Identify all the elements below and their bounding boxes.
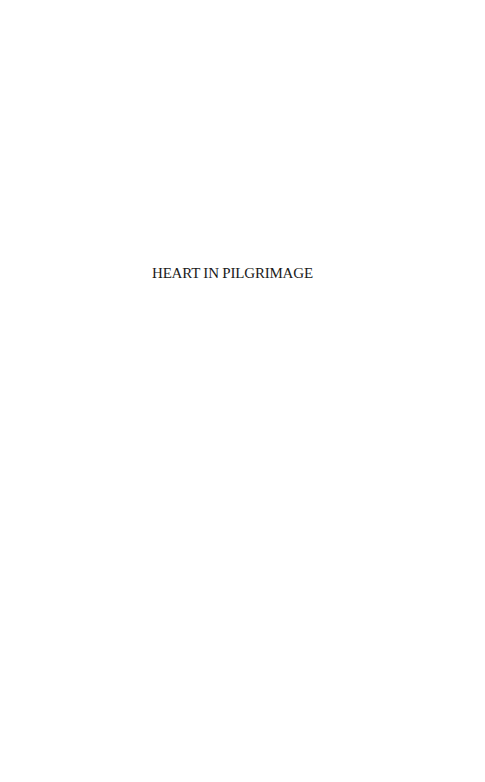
book-page: HEART IN PILGRIMAGE	[0, 0, 485, 782]
half-title: HEART IN PILGRIMAGE	[152, 264, 313, 282]
